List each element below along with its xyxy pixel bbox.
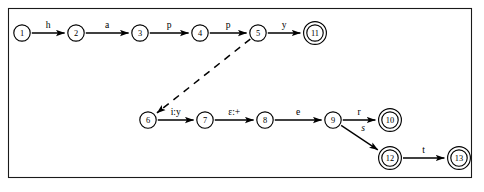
transition-label-7-8: ε:+ [228, 106, 240, 117]
transition-9-to-12 [341, 125, 378, 149]
state-label-9: 9 [331, 116, 335, 125]
state-node-4[interactable]: 4 [192, 25, 208, 41]
transition-label-4-5: p [226, 19, 231, 30]
state-node-3[interactable]: 3 [132, 25, 148, 41]
state-node-10[interactable]: 10 [379, 109, 402, 132]
state-label-12: 12 [386, 154, 394, 163]
transition-label-8-9: e [296, 106, 300, 117]
state-label-8: 8 [263, 116, 267, 125]
state-node-12[interactable]: 12 [379, 147, 402, 170]
transition-edges [32, 33, 445, 158]
diagram-page: 12345116789101213 happyi:yε:+erst [0, 0, 484, 192]
state-node-5[interactable]: 5 [250, 25, 266, 41]
state-label-7: 7 [203, 116, 207, 125]
state-label-10: 10 [386, 116, 394, 125]
transition-label-5-11: y [282, 19, 287, 30]
transition-5-to-6 [157, 39, 250, 113]
state-node-1[interactable]: 1 [14, 25, 30, 41]
transition-label-6-7: i:y [171, 106, 181, 117]
transition-label-3-4: p [167, 19, 172, 30]
state-nodes: 12345116789101213 [14, 22, 471, 170]
state-label-2: 2 [74, 29, 78, 38]
state-label-3: 3 [138, 29, 142, 38]
transition-label-9-12: s [361, 122, 365, 133]
transition-label-12-13: t [422, 144, 425, 155]
state-node-6[interactable]: 6 [140, 112, 156, 128]
state-label-5: 5 [256, 29, 260, 38]
state-node-7[interactable]: 7 [197, 112, 213, 128]
state-node-2[interactable]: 2 [68, 25, 84, 41]
state-label-13: 13 [455, 154, 463, 163]
state-node-8[interactable]: 8 [257, 112, 273, 128]
transition-labels: happyi:yε:+erst [46, 19, 426, 155]
transition-label-9-10: r [357, 106, 361, 117]
transition-label-2-3: a [105, 19, 110, 30]
state-node-13[interactable]: 13 [448, 147, 471, 170]
state-label-1: 1 [20, 29, 24, 38]
state-label-6: 6 [146, 116, 150, 125]
transition-label-1-2: h [46, 19, 51, 30]
state-node-11[interactable]: 11 [304, 22, 327, 45]
state-node-9[interactable]: 9 [325, 112, 341, 128]
state-label-11: 11 [311, 29, 319, 38]
fsa-diagram: 12345116789101213 happyi:yε:+erst [0, 0, 484, 192]
